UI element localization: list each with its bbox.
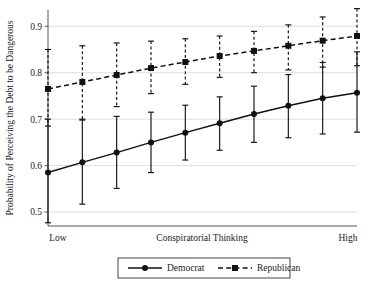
legend-label-republican: Republican [257,263,301,273]
data-point-marker [320,38,326,44]
data-point-marker [354,33,360,39]
x-tick-label-low: Low [49,233,67,243]
legend-marker-democrat [142,265,148,271]
y-tick-label: 0.5 [30,207,42,217]
data-point-marker [320,95,326,101]
data-point-marker [45,170,51,176]
legend-label-democrat: Democrat [167,263,205,273]
y-axis-label: Probability of Perceiving the Debt to be… [5,20,15,215]
data-point-marker [79,159,85,165]
probability-line-chart: 0.50.60.70.80.9 Probability of Perceivin… [0,0,376,283]
data-point-marker [285,43,291,49]
data-point-marker [354,90,360,96]
data-point-marker [45,86,51,92]
data-point-marker [217,120,223,126]
y-tick-label: 0.6 [30,161,42,171]
chart-legend: DemocratRepublican [118,258,301,278]
data-point-marker [79,79,85,85]
data-point-marker [285,103,291,109]
data-point-marker [114,150,120,156]
y-tick-label: 0.7 [30,115,42,125]
data-point-marker [182,59,188,65]
data-point-marker [217,53,223,59]
chart-figure: 0.50.60.70.80.9 Probability of Perceivin… [0,0,376,283]
data-point-marker [251,111,257,117]
data-point-marker [114,72,120,78]
data-point-marker [148,65,154,71]
data-point-marker [182,130,188,136]
y-tick-label: 0.8 [30,68,42,78]
legend-marker-republican [232,265,238,271]
data-point-marker [251,48,257,54]
data-point-marker [148,139,154,145]
x-axis-label: Conspiratorial Thinking [156,233,248,243]
x-tick-label-high: High [339,233,358,243]
y-tick-label: 0.9 [30,22,42,32]
